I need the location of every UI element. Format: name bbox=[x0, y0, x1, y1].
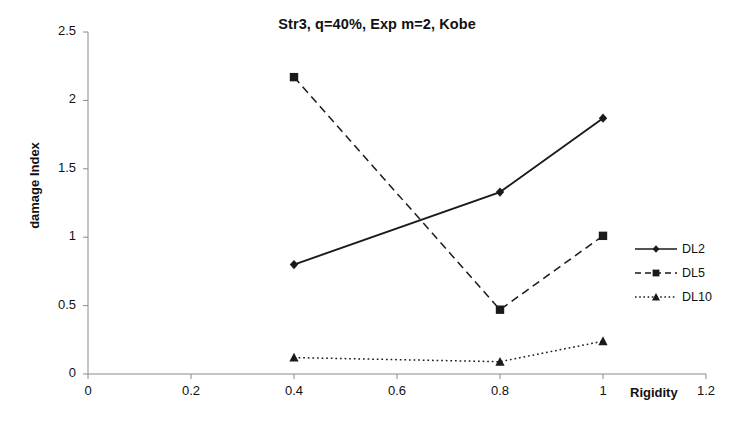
series-line-dl2 bbox=[294, 118, 603, 264]
legend-label-dl2: DL2 bbox=[682, 242, 705, 256]
series-line-dl10 bbox=[294, 341, 603, 362]
legend-swatch-dl5 bbox=[634, 266, 678, 280]
data-point-dl2-0 bbox=[290, 260, 298, 269]
data-point-dl10-0 bbox=[289, 353, 298, 362]
legend-label-dl10: DL10 bbox=[682, 290, 712, 304]
series-dl10 bbox=[289, 336, 607, 365]
data-point-dl10-2 bbox=[598, 336, 607, 345]
series-dl2 bbox=[290, 114, 607, 270]
legend-item-dl10: DL10 bbox=[634, 285, 712, 309]
plot-area bbox=[0, 0, 754, 431]
legend-item-dl2: DL2 bbox=[634, 237, 712, 261]
series-line-dl5 bbox=[294, 77, 603, 310]
data-point-dl5-2 bbox=[599, 232, 607, 240]
legend-label-dl5: DL5 bbox=[682, 266, 705, 280]
chart-container: Str3, q=40%, Exp m=2, Kobe damage Index … bbox=[0, 0, 754, 431]
legend-item-dl5: DL5 bbox=[634, 261, 712, 285]
series-dl5 bbox=[290, 73, 607, 314]
chart-legend: DL2 DL5 DL10 bbox=[634, 237, 712, 309]
legend-swatch-dl2 bbox=[634, 242, 678, 256]
data-point-dl5-1 bbox=[496, 306, 504, 314]
legend-swatch-dl10 bbox=[634, 290, 678, 304]
data-point-dl5-0 bbox=[290, 73, 298, 81]
